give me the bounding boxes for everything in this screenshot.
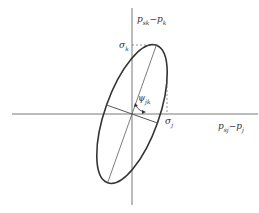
angle-psi-label: ψjk: [138, 94, 151, 105]
x-axis-label: psj−pj: [218, 122, 244, 133]
sigma-k-label: σk: [119, 41, 129, 52]
y-axis-label: psk−pk: [137, 15, 166, 26]
sigma-j-label: σj: [165, 117, 173, 128]
arrowhead-icon: [142, 110, 146, 114]
diagram-canvas: [0, 0, 259, 213]
